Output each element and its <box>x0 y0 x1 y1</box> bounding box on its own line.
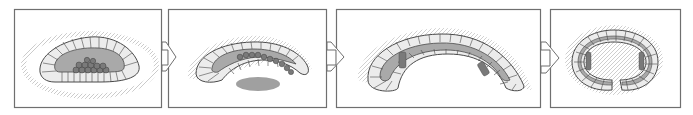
embryo-development-diagram <box>0 0 693 115</box>
arrow-right-icon <box>327 42 344 71</box>
embryo-stage-3 <box>358 28 532 91</box>
embryo-stage-2 <box>188 36 312 91</box>
arrow-right-icon <box>162 42 176 71</box>
yolk-mass <box>236 77 280 91</box>
embryo-stage-4 <box>565 25 663 95</box>
embryo-stage-1 <box>21 31 159 99</box>
arrow-right-icon <box>541 42 559 73</box>
